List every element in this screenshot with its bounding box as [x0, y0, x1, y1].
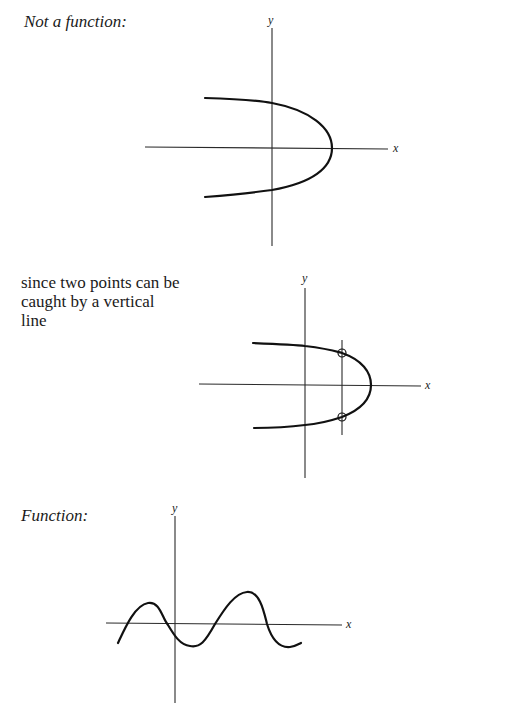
figure1-graph: y x y x y x [0, 0, 522, 711]
caption-line-2: caught by a vertical [21, 292, 211, 311]
figure1-x-label: x [392, 141, 399, 155]
figure3-x-axis [106, 623, 342, 625]
figure2-y-label: y [301, 271, 308, 285]
figure3-y-label: y [171, 501, 178, 515]
figure3-x-label: x [345, 617, 352, 631]
figure3-wave-curve [118, 592, 301, 647]
figure1-y-label: y [267, 13, 274, 27]
figure3-title: Function: [21, 506, 88, 525]
caption-line-1: since two points can be [21, 273, 211, 292]
figure2-x-axis [199, 384, 421, 386]
figure2-x-label: x [424, 378, 431, 392]
figure2-caption: since two points can be caught by a vert… [21, 273, 211, 330]
figure1-x-axis [145, 147, 388, 149]
caption-line-3: line [21, 311, 211, 330]
